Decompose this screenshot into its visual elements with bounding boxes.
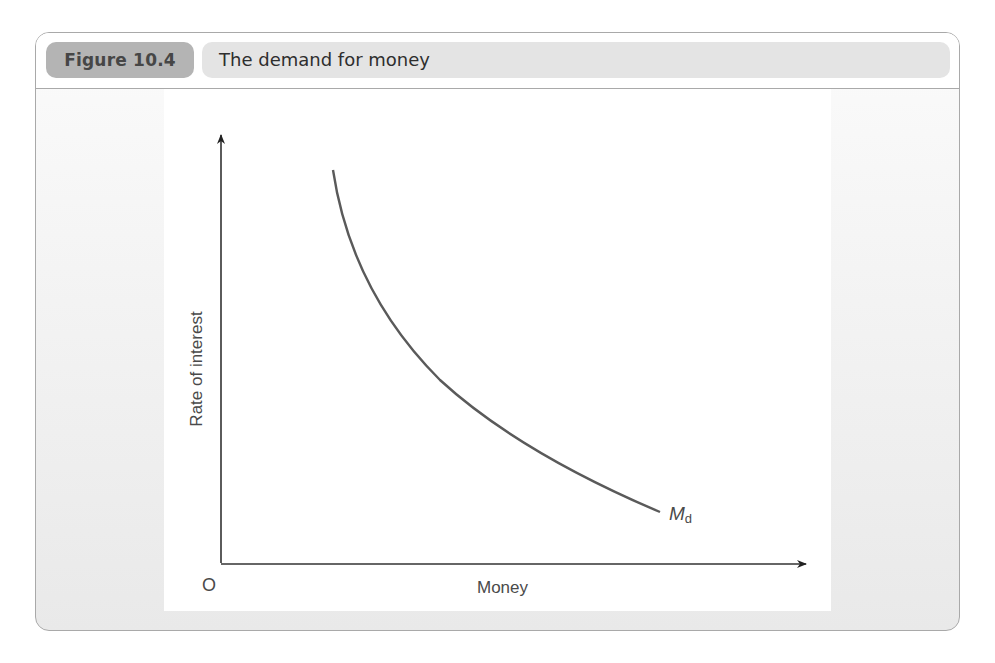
x-axis-label: Money <box>477 578 528 598</box>
curve-label-md: Md <box>669 503 692 526</box>
curve-label-main: M <box>669 503 685 524</box>
demand-for-money-chart <box>0 0 995 663</box>
money-demand-curve <box>333 170 660 512</box>
y-axis-label: Rate of interest <box>187 311 207 426</box>
curve-label-sub: d <box>685 511 692 526</box>
origin-label: O <box>202 575 216 596</box>
